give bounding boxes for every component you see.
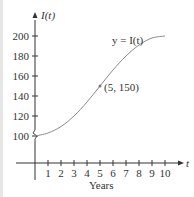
curve-label: y = I(t) xyxy=(112,34,144,47)
y-axis-arrow-icon xyxy=(33,12,38,18)
y-axis-label: I(t) xyxy=(40,9,55,22)
x-tick-label: 4 xyxy=(84,167,90,179)
y-ticks: 100120140160180200 xyxy=(13,30,39,142)
y-tick-label: 120 xyxy=(13,110,30,122)
x-axis-label: Years xyxy=(89,179,114,191)
x-axis-symbol: t xyxy=(186,157,190,169)
x-tick-label: 2 xyxy=(58,167,64,179)
x-tick-label: 9 xyxy=(149,167,155,179)
x-axis-arrow-icon xyxy=(178,161,184,166)
y-tick-label: 160 xyxy=(13,70,30,82)
annotation-point xyxy=(99,85,102,88)
x-tick-label: 6 xyxy=(110,167,116,179)
y-tick-label: 140 xyxy=(13,90,30,102)
x-tick-label: 1 xyxy=(45,167,51,179)
x-tick-label: 7 xyxy=(123,167,129,179)
y-tick-label: 200 xyxy=(13,30,30,42)
x-tick-label: 10 xyxy=(160,167,172,179)
annotation-label: (5, 150) xyxy=(104,81,139,94)
x-tick-label: 3 xyxy=(71,167,77,179)
x-tick-label: 8 xyxy=(136,167,142,179)
x-tick-label: 5 xyxy=(97,167,103,179)
chart: I(t) t 100120140160180200 12345678910 Ye… xyxy=(0,0,194,197)
y-tick-label: 100 xyxy=(13,130,30,142)
y-tick-label: 180 xyxy=(13,50,30,62)
